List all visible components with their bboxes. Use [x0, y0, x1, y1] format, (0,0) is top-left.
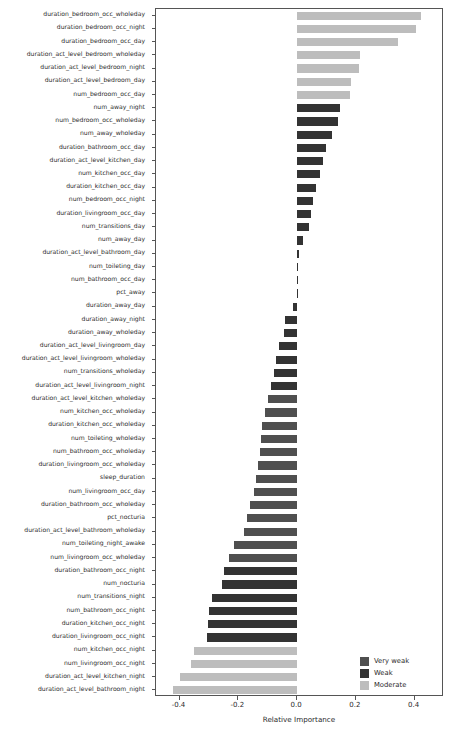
y-tick-label-duration_act_level_bedroom_day: duration_act_level_bedroom_day [45, 77, 145, 83]
y-tick-label-num_bedroom_occ_wholeday: num_bedroom_occ_wholeday [55, 117, 145, 123]
y-tick-label-duration_act_level_kitchen_day: duration_act_level_kitchen_day [50, 157, 145, 163]
y-tick-label-num_toileting_wholeday: num_toileting_wholeday [71, 435, 145, 441]
bar-num_nocturia [156, 580, 442, 588]
bar-fill [254, 488, 297, 496]
bar-fill [297, 250, 299, 258]
y-tick-label-duration_bathroom_occ_wholeday: duration_bathroom_occ_wholeday [41, 501, 145, 507]
y-tick-mark [152, 68, 155, 69]
bar-fill [297, 12, 421, 20]
bar-fill [297, 38, 398, 46]
y-tick-label-pct_nocturia: pct_nocturia [107, 514, 145, 520]
y-tick-label-num_livingroom_occ_night: num_livingroom_occ_night [64, 660, 145, 666]
y-tick-mark [152, 266, 155, 267]
relative-importance-chart: duration_bedroom_occ_wholedayduration_be… [0, 0, 449, 748]
bar-fill [297, 263, 298, 271]
bar-fill [297, 223, 309, 231]
y-tick-label-duration_act_level_bathroom_day: duration_act_level_bathroom_day [42, 249, 145, 255]
y-tick-mark [152, 584, 155, 585]
legend-label: Weak [374, 669, 393, 677]
bar-duration_act_level_bedroom_wholeday [156, 51, 442, 59]
bar-num_bathroom_occ_day [156, 276, 442, 284]
x-tick-mark [414, 696, 415, 700]
bar-fill [244, 528, 297, 536]
bar-fill [208, 620, 297, 628]
y-tick-label-duration_away_night: duration_away_night [82, 316, 145, 322]
y-tick-label-duration_livingroom_occ_night: duration_livingroom_occ_night [52, 633, 145, 639]
bar-duration_bathroom_occ_day [156, 144, 442, 152]
y-tick-mark [152, 200, 155, 201]
bar-pct_away [156, 289, 442, 297]
y-tick-mark [152, 226, 155, 227]
bar-fill [268, 395, 297, 403]
bar-num_toileting_day [156, 263, 442, 271]
bar-duration_bedroom_occ_wholeday [156, 12, 442, 20]
legend-item-very-weak: Very weak [360, 655, 436, 667]
y-tick-mark [152, 253, 155, 254]
bar-fill [279, 342, 298, 350]
chart-legend: Very weakWeakModerate [356, 652, 440, 694]
bar-num_bedroom_occ_day [156, 91, 442, 99]
bar-fill [297, 170, 320, 178]
bar-fill [297, 210, 311, 218]
y-tick-mark [152, 663, 155, 664]
bar-fill [180, 673, 298, 681]
bar-fill [297, 91, 350, 99]
bar-pct_nocturia [156, 514, 442, 522]
y-tick-mark [152, 107, 155, 108]
bar-num_transitions_day [156, 223, 442, 231]
bar-num_away_day [156, 236, 442, 244]
bar-fill [297, 25, 416, 33]
bar-num_toileting_night_awake [156, 541, 442, 549]
bar-fill [297, 184, 316, 192]
y-tick-label-num_away_night: num_away_night [94, 104, 146, 110]
y-tick-label-duration_act_level_livingroom_day: duration_act_level_livingroom_day [40, 342, 145, 348]
bar-duration_bathroom_occ_night [156, 567, 442, 575]
y-tick-label-duration_act_level_kitchen_night: duration_act_level_kitchen_night [45, 673, 145, 679]
y-tick-mark [152, 517, 155, 518]
bar-num_bedroom_occ_wholeday [156, 117, 442, 125]
y-tick-label-duration_bathroom_occ_night: duration_bathroom_occ_night [54, 567, 145, 573]
y-tick-label-num_livingroom_occ_day: num_livingroom_occ_day [68, 488, 145, 494]
y-tick-mark [152, 173, 155, 174]
y-tick-mark [152, 279, 155, 280]
y-tick-mark [152, 372, 155, 373]
y-tick-mark [152, 319, 155, 320]
y-axis-tick-labels: duration_bedroom_occ_wholedayduration_be… [0, 8, 152, 696]
y-tick-label-num_kitchen_occ_wholeday: num_kitchen_occ_wholeday [60, 408, 145, 414]
bar-num_livingroom_occ_day [156, 488, 442, 496]
y-tick-label-duration_act_level_livingroom_night: duration_act_level_livingroom_night [35, 382, 145, 388]
y-tick-label-duration_act_level_bathroom_wholeday: duration_act_level_bathroom_wholeday [24, 527, 145, 533]
bar-duration_livingroom_occ_wholeday [156, 461, 442, 469]
y-tick-mark [152, 240, 155, 241]
x-tick-mark [179, 696, 180, 700]
bar-num_away_wholeday [156, 131, 442, 139]
bar-num_transitions_wholeday [156, 369, 442, 377]
bar-num_bathroom_occ_wholeday [156, 448, 442, 456]
bar-fill [173, 686, 297, 694]
y-tick-mark [152, 504, 155, 505]
y-tick-mark [152, 306, 155, 307]
bar-duration_kitchen_occ_wholeday [156, 422, 442, 430]
y-tick-label-num_away_day: num_away_day [98, 236, 145, 242]
bar-fill [297, 144, 326, 152]
y-tick-label-num_bedroom_occ_night: num_bedroom_occ_night [69, 196, 145, 202]
y-tick-mark [152, 610, 155, 611]
bar-fill [250, 501, 297, 509]
y-tick-mark [152, 544, 155, 545]
y-tick-label-duration_act_level_livingroom_wholeday: duration_act_level_livingroom_wholeday [22, 355, 145, 361]
y-tick-label-num_kitchen_occ_day: num_kitchen_occ_day [78, 170, 145, 176]
bar-fill [256, 475, 297, 483]
bar-sleep_duration [156, 475, 442, 483]
y-tick-mark [152, 332, 155, 333]
x-tick-label-0.4: 0.4 [394, 701, 434, 709]
bar-fill [297, 276, 298, 284]
x-tick-label-0.0: 0.0 [276, 701, 316, 709]
y-tick-label-duration_livingroom_occ_day: duration_livingroom_occ_day [56, 210, 145, 216]
bar-fill [293, 303, 297, 311]
y-tick-mark [152, 570, 155, 571]
y-tick-label-duration_away_day: duration_away_day [86, 302, 145, 308]
bar-duration_act_level_livingroom_day [156, 342, 442, 350]
bar-num_livingroom_occ_wholeday [156, 554, 442, 562]
legend-label: Very weak [374, 657, 409, 665]
y-tick-mark [152, 54, 155, 55]
